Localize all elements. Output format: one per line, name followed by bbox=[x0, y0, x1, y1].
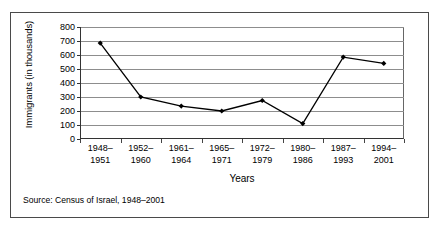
y-tick-label: 200 bbox=[60, 106, 75, 116]
x-tick-label-line1: 1987– bbox=[323, 143, 364, 155]
x-tick-label: 1987–1993 bbox=[323, 143, 364, 166]
x-axis-tick-labels: 1948–19511952–19601961–19641965–19711972… bbox=[80, 143, 404, 173]
line-series bbox=[80, 27, 404, 139]
x-tick-label: 1952–1960 bbox=[121, 143, 162, 166]
series-line bbox=[100, 43, 384, 124]
data-point-marker bbox=[381, 61, 386, 66]
x-tick-mark bbox=[404, 139, 405, 143]
x-tick-label-line1: 1994– bbox=[364, 143, 405, 155]
x-axis-title: Years bbox=[80, 173, 404, 184]
x-tick-label-line2: 1960 bbox=[121, 155, 162, 167]
y-tick-label: 300 bbox=[60, 92, 75, 102]
x-tick-label-line1: 1952– bbox=[121, 143, 162, 155]
x-tick-label-line1: 1961– bbox=[161, 143, 202, 155]
x-tick-label: 1948–1951 bbox=[80, 143, 121, 166]
y-tick-label: 800 bbox=[60, 22, 75, 32]
x-tick-label-line2: 1993 bbox=[323, 155, 364, 167]
y-axis-title: Immigrants (in thousands) bbox=[23, 10, 34, 140]
x-tick-label-line1: 1980– bbox=[283, 143, 324, 155]
y-tick-label: 400 bbox=[60, 78, 75, 88]
x-tick-label-line2: 1979 bbox=[242, 155, 283, 167]
x-tick-label-line2: 1971 bbox=[202, 155, 243, 167]
y-tick-label: 500 bbox=[60, 64, 75, 74]
x-tick-label: 1972–1979 bbox=[242, 143, 283, 166]
y-tick-label: 0 bbox=[70, 134, 75, 144]
x-tick-label-line2: 1964 bbox=[161, 155, 202, 167]
x-tick-label: 1965–1971 bbox=[202, 143, 243, 166]
x-tick-label-line1: 1972– bbox=[242, 143, 283, 155]
x-tick-label: 1994–2001 bbox=[364, 143, 405, 166]
y-tick-label: 600 bbox=[60, 50, 75, 60]
y-tick-label: 100 bbox=[60, 120, 75, 130]
x-tick-label-line1: 1948– bbox=[80, 143, 121, 155]
x-tick-label-line2: 2001 bbox=[364, 155, 405, 167]
x-tick-label-line2: 1986 bbox=[283, 155, 324, 167]
source-note: Source: Census of Israel, 1948–2001 bbox=[23, 195, 165, 205]
y-tick-label: 700 bbox=[60, 36, 75, 46]
data-point-marker bbox=[179, 104, 184, 109]
chart-figure: Immigrants (in thousands) 01002003004005… bbox=[10, 12, 429, 218]
data-point-marker bbox=[260, 98, 265, 103]
x-tick-label: 1961–1964 bbox=[161, 143, 202, 166]
x-tick-label: 1980–1986 bbox=[283, 143, 324, 166]
x-tick-label-line1: 1965– bbox=[202, 143, 243, 155]
data-point-marker bbox=[219, 108, 224, 113]
x-tick-label-line2: 1951 bbox=[80, 155, 121, 167]
plot-area: 0100200300400500600700800 bbox=[80, 27, 404, 139]
